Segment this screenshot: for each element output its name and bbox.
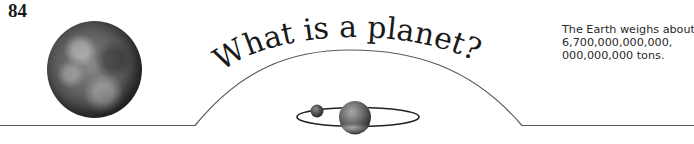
moon-icon — [311, 105, 324, 118]
fact-line: 6,700,000,000,000, — [562, 36, 694, 49]
header-graphic: What is a planet? — [0, 0, 694, 144]
fact-line: The Earth weighs about — [562, 23, 694, 36]
orbit-diagram — [297, 101, 419, 134]
fact-box: The Earth weighs about 6,700,000,000,000… — [562, 23, 694, 62]
fact-line: 000,000,000 tons. — [562, 49, 694, 62]
